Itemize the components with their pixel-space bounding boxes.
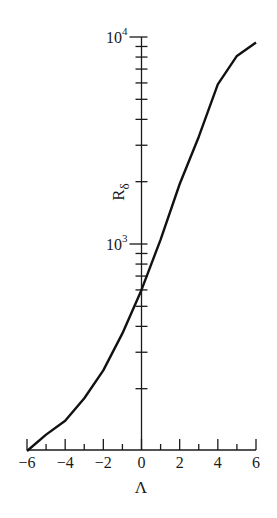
y-tick-label-base: 10 xyxy=(106,29,122,46)
y-axis-label: Rδ xyxy=(109,183,132,200)
tick-labels: −6−4−20246103104 xyxy=(18,25,260,471)
y-axis-label-subscript: δ xyxy=(117,183,132,189)
svg-text:Rδ: Rδ xyxy=(109,183,132,200)
x-tick-label: 0 xyxy=(138,454,146,471)
x-tick-label: 4 xyxy=(214,454,222,471)
y-tick-label: 104 xyxy=(106,25,128,46)
ticks xyxy=(27,37,256,450)
y-axis-label-main: R xyxy=(109,189,128,201)
y-tick-label-exponent: 4 xyxy=(122,25,128,37)
x-tick-label: −6 xyxy=(18,454,35,471)
x-tick-label: 6 xyxy=(252,454,260,471)
x-tick-label: −2 xyxy=(95,454,112,471)
y-tick-label: 103 xyxy=(106,232,128,253)
y-tick-label-exponent: 3 xyxy=(122,232,128,244)
x-axis-label: Λ xyxy=(135,478,148,497)
y-tick-label-base: 10 xyxy=(106,236,122,253)
x-tick-label: −4 xyxy=(57,454,74,471)
chart: −6−4−20246103104 Λ Rδ xyxy=(0,0,277,518)
x-tick-label: 2 xyxy=(176,454,184,471)
